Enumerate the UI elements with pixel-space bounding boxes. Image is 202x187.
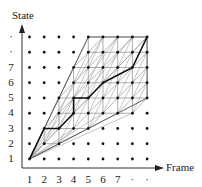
grid-dot — [72, 36, 75, 39]
grid-dot — [131, 112, 134, 115]
trellis-diagram — [0, 0, 202, 187]
y-axis-arrow-icon — [19, 24, 25, 33]
grid-dot — [72, 127, 75, 130]
grid-dot — [72, 158, 75, 161]
lattice-diagonal — [118, 68, 133, 83]
y-tick-label: · — [6, 46, 16, 57]
grid-dot — [102, 97, 105, 100]
lattice-diagonal — [74, 83, 89, 98]
grid-dot — [43, 158, 46, 161]
grid-dot — [72, 97, 75, 100]
grid-dot — [43, 66, 46, 69]
grid-dot — [102, 112, 105, 115]
grid-dot — [87, 142, 90, 145]
grid-dot — [28, 127, 31, 130]
grid-dot — [131, 142, 134, 145]
lattice-diagonal — [103, 83, 118, 98]
y-tick-label: 1 — [6, 153, 16, 164]
grid-dot — [87, 66, 90, 69]
grid-dot — [116, 97, 119, 100]
x-tick-label: 3 — [54, 174, 64, 185]
lattice-diagonal — [118, 98, 133, 113]
x-tick-label: · — [142, 174, 152, 185]
x-tick-label: 5 — [83, 174, 93, 185]
grid-dot — [43, 51, 46, 54]
grid-dot — [116, 81, 119, 84]
grid-dot — [43, 36, 46, 39]
grid-dot — [116, 142, 119, 145]
grid-dot — [146, 158, 149, 161]
grid-dot — [58, 51, 61, 54]
grid-dot — [58, 81, 61, 84]
grid-dot — [87, 36, 90, 39]
grid-dot — [28, 158, 31, 161]
y-tick-label: 6 — [6, 77, 16, 88]
lattice-diagonal — [44, 113, 59, 128]
grid-dot — [102, 51, 105, 54]
grid-dot — [58, 112, 61, 115]
grid-dot — [146, 51, 149, 54]
lattice-diagonal — [103, 37, 118, 52]
y-tick-label: 4 — [6, 107, 16, 118]
grid-dot — [87, 51, 90, 54]
grid-dot — [58, 36, 61, 39]
grid-dot — [116, 36, 119, 39]
lattice-diagonal — [74, 113, 89, 128]
grid-dot — [146, 112, 149, 115]
grid-dot — [131, 36, 134, 39]
grid-dot — [72, 51, 75, 54]
y-tick-label: 3 — [6, 123, 16, 134]
y-axis-label: State — [12, 10, 34, 21]
lattice-diagonal — [132, 83, 147, 98]
x-tick-label: 4 — [69, 174, 79, 185]
grid-dot — [131, 51, 134, 54]
grid-dot — [43, 97, 46, 100]
grid-dot — [116, 66, 119, 69]
x-tick-label: 6 — [98, 174, 108, 185]
x-tick-label: 2 — [39, 174, 49, 185]
lattice-fan — [30, 113, 133, 159]
grid-dot — [28, 112, 31, 115]
grid-dot — [131, 81, 134, 84]
x-tick-label: · — [127, 174, 137, 185]
lattice-diagonal — [59, 83, 74, 98]
grid-dot — [146, 81, 149, 84]
grid-dot — [131, 66, 134, 69]
x-axis-arrow-icon — [155, 165, 164, 171]
lattice-diagonal — [88, 98, 103, 113]
grid-dot — [43, 142, 46, 145]
grid-dot — [131, 158, 134, 161]
grid-dot — [87, 158, 90, 161]
grid-dot — [58, 66, 61, 69]
grid-dot — [116, 112, 119, 115]
x-tick-label: 7 — [113, 174, 123, 185]
grid-dot — [116, 158, 119, 161]
grid-dot — [43, 112, 46, 115]
grid-dot — [28, 66, 31, 69]
lattice-diagonal — [88, 37, 103, 52]
grid-dot — [28, 142, 31, 145]
grid-dot — [72, 112, 75, 115]
grid-dot — [131, 127, 134, 130]
grid-dot — [131, 97, 134, 100]
grid-dot — [28, 36, 31, 39]
grid-dot — [116, 127, 119, 130]
grid-dot — [43, 127, 46, 130]
grid-dot — [102, 127, 105, 130]
lattice-diagonal — [103, 98, 118, 113]
grid-dot — [146, 142, 149, 145]
grid-dot — [58, 127, 61, 130]
grid-dot — [146, 36, 149, 39]
grid-dot — [72, 81, 75, 84]
grid-dot — [102, 158, 105, 161]
grid-dot — [43, 81, 46, 84]
grid-dot — [146, 127, 149, 130]
grid-dot — [87, 127, 90, 130]
y-tick-label: · — [6, 31, 16, 42]
y-tick-label: 5 — [6, 92, 16, 103]
grid-dot — [146, 97, 149, 100]
grid-dot — [58, 158, 61, 161]
lattice-diagonal — [132, 68, 147, 83]
lattice-diagonal — [132, 52, 147, 67]
grid-dot — [28, 51, 31, 54]
